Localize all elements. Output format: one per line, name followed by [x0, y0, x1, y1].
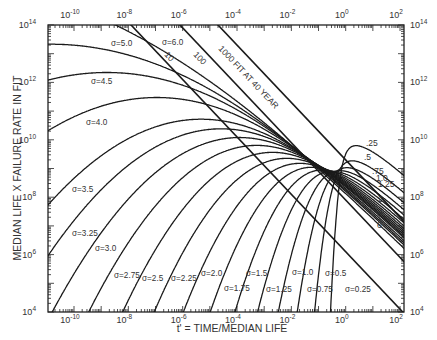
sigma-curve-label: σ=1.75 — [224, 284, 250, 293]
x-tick-label-bottom: 102 — [389, 313, 403, 325]
y-tick-label-right: 1014 — [410, 18, 428, 30]
sigma-curve-label: σ=1.0 — [292, 268, 314, 277]
y-tick-label-right: 106 — [410, 248, 424, 260]
sigma-curve-label: σ=2.0 — [201, 269, 223, 278]
y-tick-label-right: 104 — [410, 305, 424, 317]
x-tick-label-top: 100 — [335, 8, 349, 20]
y-tick-label-left: 1014 — [19, 18, 37, 30]
x-tick-label-top: 10-8 — [116, 8, 132, 20]
sigma-curve-label: σ=0.75 — [307, 285, 333, 294]
x-axis-title: t' = TIME/MEDIAN LIFE — [177, 322, 288, 334]
right-cluster-sigma-label: .25 — [366, 138, 378, 148]
right-cluster-sigma-label: .5 — [364, 152, 371, 162]
sigma-curve-label: σ=0.25 — [345, 285, 371, 294]
x-tick-label-top: 10-10 — [60, 8, 80, 20]
sigma-curve — [41, 44, 405, 246]
right-cluster-sigma-label: 1.25 — [378, 179, 395, 189]
right-cluster-sigma-label: 4 — [378, 207, 383, 217]
x-tick-label-bottom: 100 — [335, 313, 349, 325]
right-cluster-sigma-label: 6 — [377, 220, 382, 230]
y-tick-label-left: 106 — [22, 248, 36, 260]
right-cluster-sigma-label: 2 — [378, 194, 383, 204]
sigma-curve-label: σ=2.5 — [142, 274, 164, 283]
sigma-curve — [41, 145, 405, 340]
y-tick-label-left: 108 — [22, 190, 36, 202]
y-tick-label-right: 108 — [410, 190, 424, 202]
y-tick-label-right: 1012 — [410, 75, 428, 87]
constant-fit-line-label: 1000 FIT AT 40 YEAR — [217, 44, 281, 111]
x-tick-label-bottom: 10-8 — [116, 313, 132, 325]
sigma-curve-label: σ=3.5 — [72, 185, 94, 194]
x-tick-label-top: 102 — [389, 8, 403, 20]
sigma-curve-label: σ=4.0 — [86, 118, 108, 127]
sigma-curve-label: σ=2.25 — [171, 274, 197, 283]
x-tick-label-bottom: 10-10 — [60, 313, 80, 325]
sigma-curve-label: σ=3.0 — [95, 244, 117, 253]
x-tick-label-top: 10-2 — [279, 8, 295, 20]
sigma-curve-label: σ=4.5 — [91, 77, 113, 86]
sigma-curve-label: σ=6.0 — [162, 38, 184, 47]
sigma-curve-label: σ=1.25 — [266, 285, 292, 294]
x-tick-label-top: 10-4 — [225, 8, 241, 20]
sigma-curve-label: σ=5.0 — [111, 39, 133, 48]
sigma-curve-label: σ=3.25 — [72, 229, 98, 238]
x-tick-label-top: 10-6 — [171, 8, 187, 20]
y-tick-label-right: 1010 — [410, 133, 428, 145]
y-axis-title: MEDIAN LIFE X FAILURE RATE IN FIT — [11, 75, 23, 260]
y-tick-label-left: 104 — [22, 305, 36, 317]
sigma-curve — [119, 161, 406, 340]
sigma-curve-label: σ=0.5 — [325, 269, 347, 278]
lognormal-failure-rate-chart: σ=6.0σ=5.0σ=4.5σ=4.0σ=3.5σ=3.25σ=3.0σ=2.… — [0, 0, 437, 340]
sigma-curve-label: σ=1.5 — [246, 269, 268, 278]
sigma-curve-label: σ=2.75 — [114, 271, 140, 280]
sigma-curve — [41, 73, 405, 245]
constant-fit-line — [33, 0, 413, 232]
